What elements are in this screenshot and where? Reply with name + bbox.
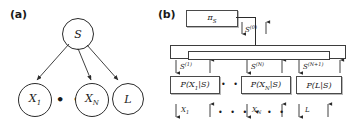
observation-label-l: L (305, 106, 310, 114)
factor-box-px1-given-s: P(X1|S) (170, 76, 220, 94)
message-s1-sup: (1) (185, 61, 192, 67)
node-xn: XN (75, 83, 109, 117)
message-sn-sup: (N) (256, 61, 264, 67)
node-xn-sub: N (93, 100, 99, 108)
factor-pxn-text: P(X (251, 80, 265, 89)
message-label-snp1: S(N+1) (303, 61, 323, 71)
factor-box-pxn-given-s: P(XN|S) (241, 76, 291, 94)
node-x1-sub: 1 (37, 100, 41, 108)
edge-s-to-x1 (37, 44, 69, 80)
factor-px1-tail: |S) (198, 80, 209, 89)
message-s0-sup: (0) (250, 24, 257, 30)
node-l-label: L (124, 93, 131, 106)
node-x1-base: X (29, 92, 37, 105)
factor-box-pl-given-s: P(L|S) (296, 76, 342, 94)
observation-l-base: L (305, 106, 310, 114)
observation-xn-sub: N (257, 109, 261, 115)
message-snp1-sup: (N+1) (308, 61, 324, 67)
factor-pxn-tail: |S) (270, 80, 281, 89)
message-label-sn: S(N) (251, 61, 264, 71)
observation-x1-sub: 1 (186, 109, 189, 115)
factor-pl-text: P(L|S) (306, 81, 331, 90)
observation-label-xn: XN (252, 106, 261, 115)
node-xn-base: X (85, 92, 93, 105)
node-x1: X1 (18, 83, 52, 117)
observation-label-x1: X1 (181, 106, 189, 115)
edge-s-to-xn (78, 49, 91, 81)
belief-bus-inner (188, 51, 330, 60)
edge-s-to-l (87, 45, 118, 80)
message-label-s0: S(0) (245, 24, 257, 34)
panel-b-message-passing-diagram: (b) πS (168, 0, 348, 128)
node-l: L (112, 83, 144, 115)
factor-px1-text: P(X (181, 80, 195, 89)
panel-a-bayesian-network: (a) S X1 • • • XN L (0, 0, 168, 128)
message-label-s1: S(1) (180, 61, 192, 71)
